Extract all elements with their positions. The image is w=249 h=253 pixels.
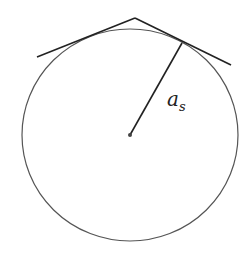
- left-tangent-line: [37, 18, 135, 57]
- radius-label: as: [167, 87, 186, 114]
- center-point: [128, 133, 132, 137]
- diagram-canvas: as: [0, 0, 249, 253]
- right-tangent-line: [135, 18, 231, 65]
